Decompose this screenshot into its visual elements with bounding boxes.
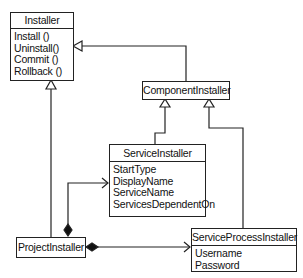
- class-name: ComponentInstaller: [143, 82, 229, 99]
- composition-project-to-service: [68, 183, 108, 225]
- method-rollback: Rollback (): [14, 66, 70, 78]
- inheritance-arrowhead-icon: [204, 99, 214, 107]
- inheritance-component-to-installer: [82, 46, 186, 81]
- class-name: Installer: [11, 13, 73, 29]
- class-component-installer: ComponentInstaller: [142, 81, 230, 100]
- property-password: Password: [195, 260, 293, 272]
- property-starttype: StartType: [113, 164, 202, 176]
- class-name: ProjectInstaller: [17, 238, 85, 257]
- inheritance-arrowhead-icon: [46, 80, 56, 89]
- class-members: Install () Uninstall() Commit () Rollbac…: [11, 29, 73, 79]
- method-install: Install (): [14, 31, 70, 43]
- class-members: StartType DisplayName ServiceName Servic…: [110, 162, 205, 212]
- composition-diamond-icon: [86, 243, 98, 251]
- class-service-process-installer: ServiceProcessInstaller Username Passwor…: [191, 228, 297, 272]
- class-members: Username Password: [192, 246, 296, 273]
- composition-diamond-icon: [64, 224, 72, 236]
- class-service-installer: ServiceInstaller StartType DisplayName S…: [109, 144, 206, 217]
- method-commit: Commit (): [14, 54, 70, 66]
- inheritance-arrowhead-icon: [160, 99, 170, 107]
- property-servicename: ServiceName: [113, 187, 202, 199]
- class-name: ServiceProcessInstaller: [192, 229, 296, 246]
- property-username: Username: [195, 248, 293, 260]
- inheritance-service-to-component: [155, 107, 165, 144]
- property-servicesdependenton: ServicesDependentOn: [113, 199, 202, 211]
- class-project-installer: ProjectInstaller: [16, 237, 86, 258]
- class-installer: Installer Install () Uninstall() Commit …: [10, 12, 74, 81]
- inheritance-arrowhead-icon: [73, 41, 82, 51]
- class-name: ServiceInstaller: [110, 145, 205, 162]
